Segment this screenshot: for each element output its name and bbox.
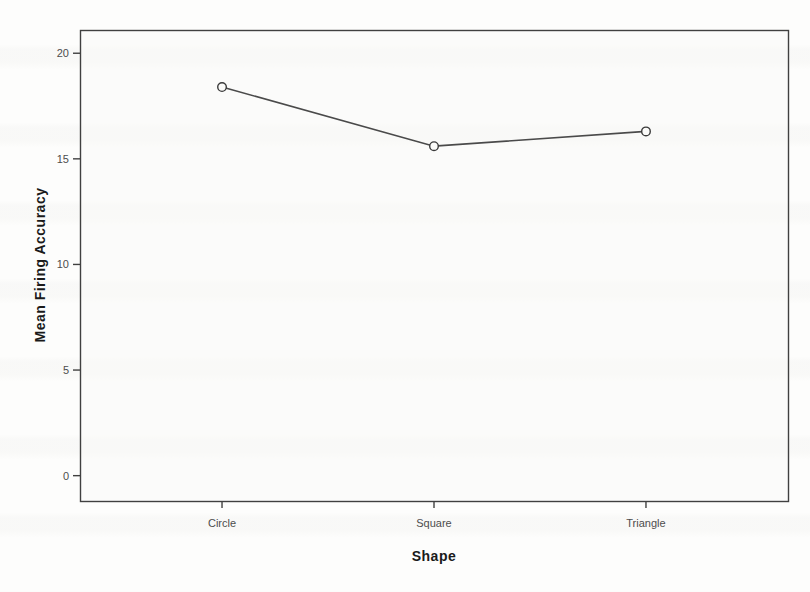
data-point-marker — [430, 142, 439, 151]
x-category-label: Triangle — [626, 517, 665, 529]
chart-canvas: 05101520CircleSquareTriangle Mean Firing… — [0, 0, 810, 592]
y-tick-label: 0 — [63, 470, 69, 482]
x-axis-title: Shape — [80, 548, 788, 564]
data-point-marker — [218, 83, 227, 92]
y-axis-title: Mean Firing Accuracy — [32, 188, 48, 343]
x-category-label: Square — [416, 517, 451, 529]
y-tick-label: 5 — [63, 364, 69, 376]
plot-frame — [81, 31, 789, 502]
y-tick-label: 15 — [57, 153, 69, 165]
line-plot: 05101520CircleSquareTriangle — [0, 0, 810, 592]
x-category-label: Circle — [208, 517, 236, 529]
data-point-marker — [642, 127, 651, 136]
y-tick-label: 10 — [57, 258, 69, 270]
y-tick-label: 20 — [57, 47, 69, 59]
